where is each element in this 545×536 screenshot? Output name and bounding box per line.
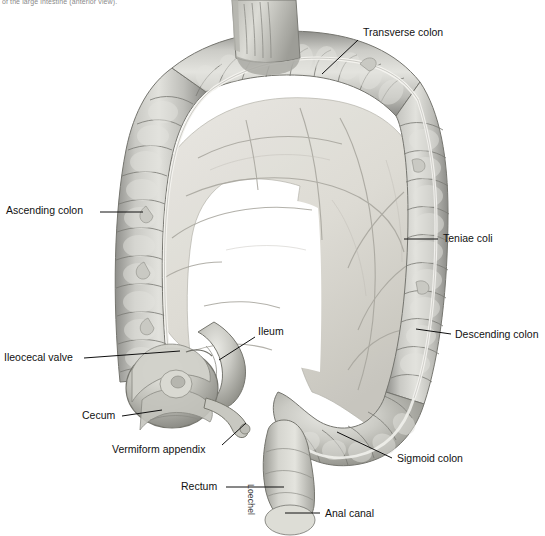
label-ileum: Ileum (258, 326, 284, 337)
figure-caption: of the large intestine (anterior view). (2, 0, 117, 5)
label-ileocecal-valve: Ileocecal valve (4, 352, 73, 363)
label-ascending-colon: Ascending colon (6, 205, 83, 216)
figure-canvas: of the large intestine (anterior view). … (0, 0, 545, 536)
cut-end-transverse (232, 0, 300, 75)
label-sigmoid-colon: Sigmoid colon (397, 453, 463, 464)
label-cecum: Cecum (82, 410, 115, 421)
label-rectum: Rectum (181, 481, 217, 492)
artist-signature: Loechel (246, 484, 256, 515)
label-vermiform-appendix: Vermiform appendix (112, 444, 205, 455)
label-descending-colon: Descending colon (455, 329, 538, 340)
label-anal-canal: Anal canal (325, 508, 374, 519)
label-teniae-coli: Teniae coli (443, 233, 493, 244)
label-transverse-colon: Transverse colon (363, 27, 443, 38)
large-intestine-illustration (0, 0, 545, 536)
